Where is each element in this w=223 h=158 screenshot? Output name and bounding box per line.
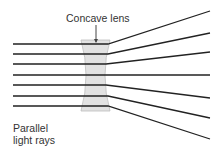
parallel-light-rays-label: Parallel light rays	[13, 122, 55, 146]
concave-lens-label: Concave lens	[66, 12, 130, 24]
light-rays	[13, 11, 210, 139]
